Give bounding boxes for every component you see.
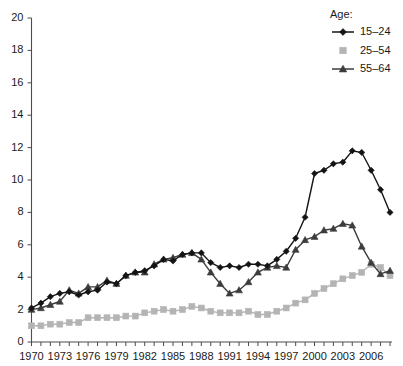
line-chart: 02468101214161820 1970197319761979198219… <box>0 0 403 366</box>
data-point-marker <box>123 313 129 319</box>
data-point-marker <box>387 267 394 273</box>
y-tick-label: 6 <box>17 238 23 250</box>
y-tick-label: 20 <box>11 11 23 23</box>
data-point-marker <box>387 209 393 215</box>
data-point-marker <box>283 305 289 311</box>
legend-item-55-64[interactable]: 55–64 <box>332 62 391 74</box>
x-tick-label: 1991 <box>217 350 241 362</box>
data-point-marker <box>274 308 280 314</box>
data-point-marker <box>264 312 270 318</box>
data-point-marker <box>293 300 299 306</box>
data-point-marker <box>378 265 384 271</box>
x-tick-label: 1988 <box>189 350 213 362</box>
x-tick-label: 1970 <box>19 350 43 362</box>
data-point-marker <box>217 310 223 316</box>
data-point-marker <box>85 315 91 321</box>
legend-item-15-24[interactable]: 15–24 <box>332 25 391 37</box>
data-point-marker <box>349 273 355 279</box>
data-point-marker <box>227 263 233 269</box>
data-point-marker <box>95 315 101 321</box>
data-point-marker <box>76 320 82 326</box>
series-55-64 <box>28 220 393 312</box>
data-point-marker <box>339 220 346 226</box>
data-point-marker <box>311 233 318 239</box>
chart-container: 02468101214161820 1970197319761979198219… <box>0 0 403 366</box>
series-line <box>32 224 391 310</box>
data-point-marker <box>189 303 195 309</box>
data-point-marker <box>340 276 346 282</box>
data-point-marker <box>359 269 365 275</box>
x-tick-label: 2006 <box>359 350 383 362</box>
data-point-marker <box>29 323 35 329</box>
data-point-marker <box>377 187 383 193</box>
legend-item-25-54[interactable]: 25–54 <box>340 44 391 56</box>
x-tick-label: 1994 <box>246 350 270 362</box>
data-point-marker <box>321 286 327 292</box>
data-point-marker <box>132 313 138 319</box>
data-point-marker <box>217 264 223 270</box>
data-point-marker <box>245 261 251 267</box>
data-point-marker <box>47 321 53 327</box>
data-point-marker <box>340 47 346 53</box>
y-tick-label: 16 <box>11 76 23 88</box>
y-tick-label: 18 <box>11 43 23 55</box>
data-point-marker <box>368 167 374 173</box>
data-point-marker <box>340 29 347 36</box>
data-point-marker <box>198 305 204 311</box>
y-tick-label: 2 <box>17 303 23 315</box>
y-tick-label: 12 <box>11 141 23 153</box>
data-point-marker <box>311 170 317 176</box>
data-point-marker <box>151 308 157 314</box>
data-point-marker <box>66 320 72 326</box>
data-point-marker <box>358 243 365 249</box>
chart-legend: Age: 15–2425–5455–64 <box>330 8 391 74</box>
data-point-marker <box>312 290 318 296</box>
data-point-marker <box>330 225 337 231</box>
x-tick-label: 1979 <box>104 350 128 362</box>
data-point-marker <box>142 310 148 316</box>
data-point-marker <box>255 261 261 267</box>
data-point-marker <box>198 256 205 262</box>
y-tick-label: 8 <box>17 205 23 217</box>
data-point-marker <box>302 214 308 220</box>
x-tick-label: 1982 <box>132 350 156 362</box>
data-point-marker <box>38 323 44 329</box>
data-point-marker <box>208 308 214 314</box>
x-tick-label: 1973 <box>48 350 72 362</box>
y-axis-tick-labels: 02468101214161820 <box>11 11 23 347</box>
data-point-marker <box>57 321 63 327</box>
data-point-marker <box>246 308 252 314</box>
data-point-marker <box>113 315 119 321</box>
chart-axes <box>28 18 393 346</box>
data-point-marker <box>359 149 365 155</box>
data-point-marker <box>236 310 242 316</box>
data-point-marker <box>255 312 261 318</box>
data-point-marker <box>66 289 72 295</box>
legend-title: Age: <box>330 8 353 20</box>
data-point-marker <box>302 297 308 303</box>
legend-label: 15–24 <box>360 25 391 37</box>
y-tick-label: 14 <box>11 108 23 120</box>
data-point-marker <box>227 310 233 316</box>
x-tick-label: 2003 <box>331 350 355 362</box>
legend-label: 25–54 <box>360 44 391 56</box>
data-point-marker <box>330 281 336 287</box>
data-series-layer <box>28 148 393 329</box>
data-point-marker <box>236 264 242 270</box>
data-point-marker <box>161 307 167 313</box>
x-tick-label: 1997 <box>274 350 298 362</box>
data-point-marker <box>104 315 110 321</box>
data-point-marker <box>273 262 280 268</box>
y-tick-label: 10 <box>11 173 23 185</box>
data-point-marker <box>180 307 186 313</box>
x-tick-label: 1976 <box>76 350 100 362</box>
x-tick-label: 2000 <box>302 350 326 362</box>
x-axis-tick-labels: 1970197319761979198219851988199119941997… <box>19 350 383 362</box>
data-point-marker <box>254 269 261 275</box>
series-15-24 <box>28 148 393 311</box>
y-tick-label: 4 <box>17 270 23 282</box>
y-tick-label: 0 <box>17 335 23 347</box>
data-point-marker <box>57 290 63 296</box>
legend-label: 55–64 <box>360 62 391 74</box>
data-point-marker <box>170 308 176 314</box>
